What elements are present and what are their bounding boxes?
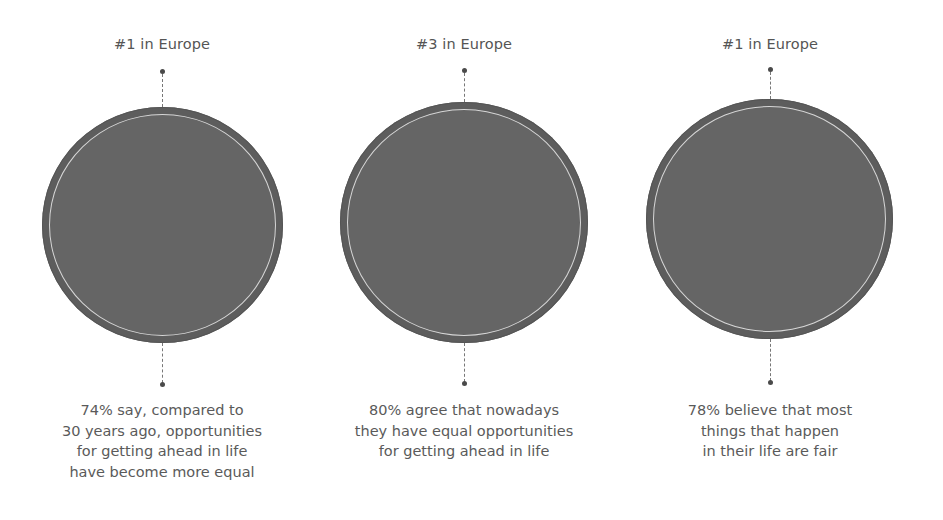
rank-label: #3 in Europe [364,36,564,52]
caption-line: things that happen [650,421,890,442]
caption-line: 74% say, compared to [42,400,282,421]
connector-line-bottom [770,339,771,381]
caption-line: for getting ahead in life [334,441,594,462]
rank-label: #1 in Europe [670,36,870,52]
stat-block-2: #3 in Europe 80% agree that nowadays the… [364,0,564,520]
stat-caption: 74% say, compared to 30 years ago, oppor… [42,400,282,482]
stat-circle-inner-ring [49,114,276,336]
caption-line: in their life are fair [650,441,890,462]
caption-line: 78% believe that most [650,400,890,421]
connector-line-top [770,72,771,99]
connector-line-top [162,74,163,107]
caption-line: 30 years ago, opportunities [42,421,282,442]
stat-circle [340,102,588,343]
connector-dot-bottom [160,382,165,387]
stat-block-1: #1 in Europe 74% say, compared to 30 yea… [62,0,262,520]
stat-circle [42,107,283,343]
connector-dot-bottom [768,380,773,385]
caption-line: for getting ahead in life [42,441,282,462]
connector-line-bottom [162,343,163,383]
stat-caption: 78% believe that most things that happen… [650,400,890,462]
connector-line-bottom [464,343,465,382]
stat-caption: 80% agree that nowadays they have equal … [334,400,594,462]
connector-line-top [464,73,465,102]
connector-dot-bottom [462,381,467,386]
rank-label: #1 in Europe [62,36,262,52]
stat-circle-inner-ring [347,109,581,336]
caption-line: 80% agree that nowadays [334,400,594,421]
caption-line: have become more equal [42,462,282,483]
stat-circle-inner-ring [653,106,886,332]
stat-block-3: #1 in Europe 78% believe that most thing… [670,0,870,520]
stat-circle [646,99,893,339]
caption-line: they have equal opportunities [334,421,594,442]
